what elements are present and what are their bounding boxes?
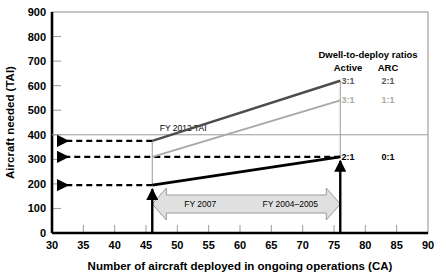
- y-tick-label: 500: [28, 104, 46, 116]
- x-tick-label: 70: [297, 239, 309, 251]
- x-tick-label: 45: [140, 239, 152, 251]
- aircraft-needed-chart: 0100200300400500600700800900 30354045505…: [0, 0, 446, 276]
- y-tick-label: 100: [28, 202, 46, 214]
- x-axis-title: Number of aircraft deployed in ongoing o…: [88, 260, 393, 272]
- y-tick-label: 900: [28, 6, 46, 18]
- y-tick-label: 300: [28, 153, 46, 165]
- y-tick-label: 200: [28, 178, 46, 190]
- y-tick-label: 800: [28, 31, 46, 43]
- x-tick-label: 40: [109, 239, 121, 251]
- x-tick-label: 55: [203, 239, 215, 251]
- y-axis-title: Aircraft needed (TAI): [4, 66, 16, 179]
- x-tick-label: 35: [77, 239, 89, 251]
- legend-header-arc: ARC: [378, 62, 399, 73]
- x-tick-label: 30: [46, 239, 58, 251]
- legend-arc-1: 2:1: [381, 76, 394, 86]
- legend-active-3: 2:1: [341, 152, 354, 162]
- x-tick-label: 85: [391, 239, 403, 251]
- y-tick-label: 0: [40, 227, 46, 239]
- x-tick-label: 65: [265, 239, 277, 251]
- chart-root: 0100200300400500600700800900 30354045505…: [0, 0, 446, 276]
- x-tick-label: 75: [328, 239, 340, 251]
- x-tick-label: 90: [422, 239, 434, 251]
- y-tick-label: 700: [28, 55, 46, 67]
- legend-active-2: 3:1: [341, 95, 354, 105]
- legend-arc-2: 1:1: [381, 95, 394, 105]
- fy2007-band-label: FY 2007: [184, 199, 216, 209]
- y-tick-label: 400: [28, 129, 46, 141]
- legend-header-active: Active: [334, 62, 363, 73]
- fy2004-2005-band-label: FY 2004–2005: [262, 199, 318, 209]
- legend-title: Dwell-to-deploy ratios: [318, 49, 417, 60]
- x-tick-label: 60: [234, 239, 246, 251]
- legend-active-1: 3:1: [341, 76, 354, 86]
- legend-arc-3: 0:1: [381, 152, 394, 162]
- y-tick-label: 600: [28, 80, 46, 92]
- x-tick-label: 50: [171, 239, 183, 251]
- x-tick-label: 80: [359, 239, 371, 251]
